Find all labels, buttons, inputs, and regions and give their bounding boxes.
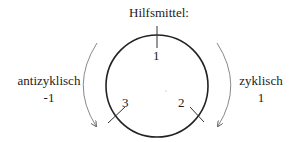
anticlockwise-value: -1 xyxy=(14,91,84,104)
cycle-diagram xyxy=(0,0,295,142)
clockwise-arrow xyxy=(217,43,231,126)
position-2-label: 2 xyxy=(178,96,185,109)
anticlockwise-arrow xyxy=(83,43,97,126)
position-3-label: 3 xyxy=(122,96,129,109)
title-label: Hilfsmittel: xyxy=(129,6,189,19)
clockwise-label: zyklisch 1 xyxy=(236,74,286,104)
anticlockwise-text: antizyklisch xyxy=(14,74,84,87)
position-1-label: 1 xyxy=(153,49,160,62)
clockwise-text: zyklisch xyxy=(236,74,286,87)
anticlockwise-label: antizyklisch -1 xyxy=(14,74,84,104)
clockwise-value: 1 xyxy=(236,91,286,104)
